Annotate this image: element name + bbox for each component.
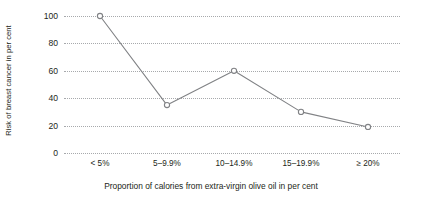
x-tick-label: < 5% bbox=[91, 160, 110, 168]
y-axis-title-label: Risk of breast cancer in per cent bbox=[4, 25, 13, 136]
x-tick-label: 10–14.9% bbox=[216, 160, 253, 168]
y-axis-title: Risk of breast cancer in per cent bbox=[0, 0, 16, 160]
line-series bbox=[64, 16, 400, 153]
x-tick-label: ≥ 20% bbox=[356, 160, 379, 168]
y-tick-label: 100 bbox=[24, 12, 58, 21]
chart-figure: Risk of breast cancer in per cent 020406… bbox=[0, 0, 422, 203]
y-tick-label: 80 bbox=[24, 39, 58, 48]
x-axis-title: Proportion of calories from extra-virgin… bbox=[0, 182, 422, 190]
x-tick-label: 15–19.9% bbox=[283, 160, 320, 168]
x-tick-label: 5–9.9% bbox=[153, 160, 181, 168]
data-point-marker bbox=[231, 68, 236, 73]
x-axis-tick-labels: < 5%5–9.9%10–14.9%15–19.9%≥ 20% bbox=[64, 160, 400, 174]
y-tick-label: 40 bbox=[24, 94, 58, 103]
data-point-marker bbox=[164, 102, 169, 107]
y-tick-label: 0 bbox=[24, 149, 58, 158]
y-tick-label: 20 bbox=[24, 121, 58, 130]
gridline bbox=[64, 153, 400, 154]
data-point-marker bbox=[365, 124, 370, 129]
y-axis-tick-labels: 020406080100 bbox=[24, 16, 58, 153]
data-point-marker bbox=[298, 109, 303, 114]
y-tick-label: 60 bbox=[24, 67, 58, 76]
data-point-marker bbox=[97, 13, 102, 18]
x-axis-title-label: Proportion of calories from extra-virgin… bbox=[104, 181, 318, 191]
plot-area bbox=[64, 16, 400, 153]
